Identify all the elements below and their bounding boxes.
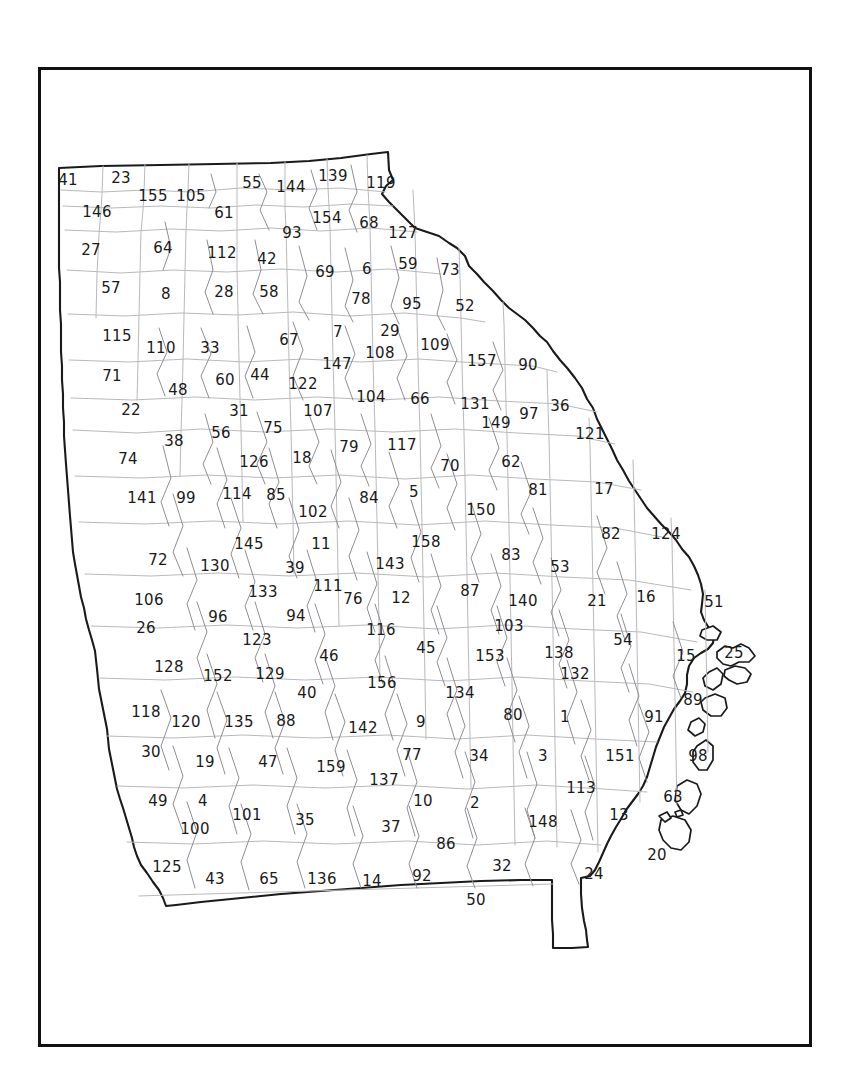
county-label[interactable]: 112 bbox=[207, 246, 237, 261]
county-label[interactable]: 72 bbox=[148, 553, 168, 568]
county-label[interactable]: 47 bbox=[258, 755, 278, 770]
county-label[interactable]: 34 bbox=[469, 749, 489, 764]
county-label[interactable]: 75 bbox=[263, 421, 283, 436]
county-label[interactable]: 84 bbox=[359, 491, 379, 506]
county-label[interactable]: 158 bbox=[411, 535, 441, 550]
county-label[interactable]: 44 bbox=[250, 368, 270, 383]
county-label[interactable]: 46 bbox=[319, 649, 339, 664]
county-label[interactable]: 21 bbox=[587, 594, 607, 609]
county-label[interactable]: 89 bbox=[683, 693, 703, 708]
county-label[interactable]: 28 bbox=[214, 285, 234, 300]
county-label[interactable]: 73 bbox=[440, 263, 460, 278]
county-label[interactable]: 55 bbox=[242, 176, 262, 191]
county-label[interactable]: 42 bbox=[257, 252, 277, 267]
county-label[interactable]: 25 bbox=[724, 646, 744, 661]
county-label[interactable]: 137 bbox=[369, 773, 399, 788]
county-label[interactable]: 41 bbox=[58, 173, 78, 188]
county-label[interactable]: 115 bbox=[102, 329, 132, 344]
county-label[interactable]: 147 bbox=[322, 357, 352, 372]
county-label[interactable]: 96 bbox=[208, 610, 228, 625]
county-label[interactable]: 122 bbox=[288, 377, 318, 392]
county-label[interactable]: 18 bbox=[292, 451, 312, 466]
county-label[interactable]: 39 bbox=[285, 561, 305, 576]
county-label[interactable]: 97 bbox=[519, 407, 539, 422]
county-label[interactable]: 40 bbox=[297, 686, 317, 701]
county-label[interactable]: 130 bbox=[200, 559, 230, 574]
county-label[interactable]: 159 bbox=[316, 760, 346, 775]
county-label[interactable]: 8 bbox=[161, 287, 171, 302]
county-label[interactable]: 98 bbox=[688, 749, 708, 764]
county-label[interactable]: 45 bbox=[416, 641, 436, 656]
county-label[interactable]: 150 bbox=[466, 503, 496, 518]
county-label[interactable]: 118 bbox=[131, 705, 161, 720]
county-label[interactable]: 50 bbox=[466, 893, 486, 908]
county-label[interactable]: 155 bbox=[138, 189, 168, 204]
county-label[interactable]: 35 bbox=[295, 813, 315, 828]
county-label[interactable]: 54 bbox=[613, 633, 633, 648]
county-label[interactable]: 133 bbox=[248, 585, 278, 600]
county-label[interactable]: 59 bbox=[398, 257, 418, 272]
county-label[interactable]: 36 bbox=[550, 399, 570, 414]
county-label[interactable]: 80 bbox=[503, 708, 523, 723]
county-label[interactable]: 58 bbox=[259, 285, 279, 300]
county-label[interactable]: 68 bbox=[359, 216, 379, 231]
county-label[interactable]: 29 bbox=[380, 324, 400, 339]
county-label[interactable]: 30 bbox=[141, 745, 161, 760]
county-label[interactable]: 136 bbox=[307, 872, 337, 887]
county-label[interactable]: 135 bbox=[224, 715, 254, 730]
county-label[interactable]: 95 bbox=[402, 297, 422, 312]
county-label[interactable]: 157 bbox=[467, 354, 497, 369]
county-label[interactable]: 1 bbox=[560, 710, 570, 725]
county-label[interactable]: 106 bbox=[134, 593, 164, 608]
county-label[interactable]: 15 bbox=[676, 649, 696, 664]
county-label[interactable]: 90 bbox=[518, 358, 538, 373]
county-label[interactable]: 105 bbox=[176, 189, 206, 204]
county-label[interactable]: 110 bbox=[146, 341, 176, 356]
county-label[interactable]: 146 bbox=[82, 205, 112, 220]
county-label[interactable]: 127 bbox=[388, 226, 418, 241]
county-label[interactable]: 70 bbox=[440, 459, 460, 474]
county-label[interactable]: 144 bbox=[276, 180, 306, 195]
county-label[interactable]: 62 bbox=[501, 455, 521, 470]
county-label[interactable]: 12 bbox=[391, 591, 411, 606]
county-label[interactable]: 87 bbox=[460, 584, 480, 599]
county-label[interactable]: 149 bbox=[481, 416, 511, 431]
county-label[interactable]: 145 bbox=[234, 537, 264, 552]
county-label[interactable]: 4 bbox=[198, 794, 208, 809]
county-label[interactable]: 156 bbox=[367, 676, 397, 691]
county-label[interactable]: 69 bbox=[315, 265, 335, 280]
county-label[interactable]: 131 bbox=[460, 397, 490, 412]
county-label[interactable]: 77 bbox=[402, 748, 422, 763]
county-label[interactable]: 111 bbox=[313, 579, 343, 594]
county-label[interactable]: 48 bbox=[168, 383, 188, 398]
county-label[interactable]: 139 bbox=[318, 169, 348, 184]
county-label[interactable]: 134 bbox=[445, 686, 475, 701]
county-label[interactable]: 64 bbox=[153, 241, 173, 256]
county-label[interactable]: 152 bbox=[203, 669, 233, 684]
county-label[interactable]: 43 bbox=[205, 872, 225, 887]
county-label[interactable]: 52 bbox=[455, 299, 475, 314]
county-label[interactable]: 83 bbox=[501, 548, 521, 563]
county-label[interactable]: 141 bbox=[127, 491, 157, 506]
county-label[interactable]: 22 bbox=[121, 403, 141, 418]
county-label[interactable]: 153 bbox=[475, 649, 505, 664]
county-label[interactable]: 10 bbox=[413, 794, 433, 809]
county-label[interactable]: 33 bbox=[200, 341, 220, 356]
county-label[interactable]: 65 bbox=[259, 872, 279, 887]
county-label[interactable]: 31 bbox=[229, 404, 249, 419]
county-label[interactable]: 26 bbox=[136, 621, 156, 636]
county-label[interactable]: 94 bbox=[286, 609, 306, 624]
county-label[interactable]: 107 bbox=[303, 404, 333, 419]
county-label[interactable]: 104 bbox=[356, 390, 386, 405]
county-label[interactable]: 66 bbox=[410, 392, 430, 407]
county-label[interactable]: 99 bbox=[176, 491, 196, 506]
county-label[interactable]: 67 bbox=[279, 333, 299, 348]
county-label[interactable]: 24 bbox=[584, 867, 604, 882]
county-label[interactable]: 117 bbox=[387, 438, 417, 453]
county-label[interactable]: 37 bbox=[381, 820, 401, 835]
county-label[interactable]: 113 bbox=[566, 781, 596, 796]
county-label[interactable]: 63 bbox=[663, 790, 683, 805]
county-label[interactable]: 129 bbox=[255, 667, 285, 682]
county-label[interactable]: 114 bbox=[222, 487, 252, 502]
county-label[interactable]: 123 bbox=[242, 633, 272, 648]
